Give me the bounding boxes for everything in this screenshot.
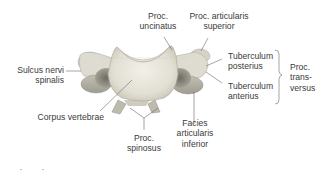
label-facies-articularis-inferior: Facies articularis inferior (172, 118, 218, 149)
label-sulcus-nervi-spinalis: Sulcus nervi spinalis (4, 65, 64, 86)
label-proc-articularis-superior: Proc. articularis superior (183, 11, 255, 32)
footer-marks (20, 169, 44, 170)
label-proc-uncinatus: Proc. uncinatus (133, 11, 183, 32)
vertebra-diagram: Proc. uncinatus Proc. articularis superi… (0, 0, 325, 171)
label-tuberculum-posterius: Tuberculum posterius (228, 51, 278, 72)
label-proc-spinosus: Proc. spinosus (120, 133, 168, 154)
label-tuberculum-anterius: Tuberculum anterius (228, 81, 278, 102)
vertebral-body-shape (100, 46, 188, 101)
label-corpus-vertebrae: Corpus vertebrae (14, 112, 104, 122)
label-proc-transversus: Proc. trans- versus (290, 62, 324, 93)
